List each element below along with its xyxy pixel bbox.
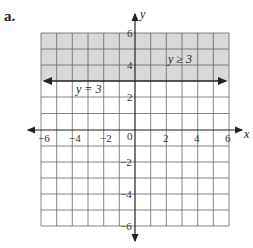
region-label: y ≥ 3: [167, 52, 192, 66]
svg-text:6: 6: [127, 27, 133, 39]
svg-text:2: 2: [127, 91, 133, 103]
svg-text:−6: −6: [120, 220, 132, 232]
svg-text:−4: −4: [120, 188, 132, 200]
svg-text:4: 4: [127, 59, 133, 71]
svg-text:−2: −2: [120, 156, 132, 168]
svg-text:0: 0: [127, 130, 133, 142]
y-axis-label: y: [139, 7, 146, 21]
x-axis-label: x: [243, 127, 250, 141]
svg-text:−6: −6: [38, 132, 50, 144]
coordinate-graph: y x y = 3 y ≥ 3 −6 −4 −2 0 2 4 6 6 4 2 −…: [0, 0, 253, 248]
line-label: y = 3: [75, 82, 101, 96]
svg-text:2: 2: [163, 132, 169, 144]
svg-text:−4: −4: [69, 132, 81, 144]
svg-text:4: 4: [194, 132, 200, 144]
svg-text:6: 6: [225, 132, 231, 144]
svg-text:−2: −2: [100, 132, 112, 144]
